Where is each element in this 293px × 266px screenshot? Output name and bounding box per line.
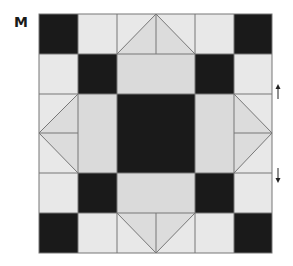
side-arrows	[276, 84, 281, 183]
dark-corner-bl	[39, 213, 78, 253]
dark-inner-br	[195, 173, 234, 213]
inner-rect-top	[117, 54, 195, 94]
dark-inner-tr	[195, 54, 234, 94]
dark-corner-br	[234, 213, 272, 253]
arrow-down-icon	[276, 168, 281, 183]
dark-corner-tr	[234, 14, 272, 54]
dark-inner-tl	[78, 54, 117, 94]
inner-rect-bottom	[117, 173, 195, 213]
dark-inner-bl	[78, 173, 117, 213]
arrow-up-icon	[276, 84, 281, 99]
quilt-block-svg	[0, 0, 293, 266]
inner-rect-left	[78, 94, 117, 173]
dark-center	[117, 94, 195, 173]
inner-rect-right	[195, 94, 234, 173]
dark-corner-tl	[39, 14, 78, 54]
